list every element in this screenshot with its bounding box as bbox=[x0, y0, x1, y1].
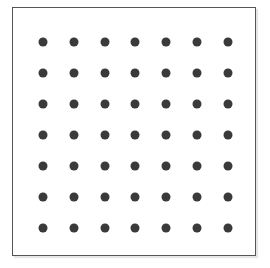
grid-dot bbox=[69, 193, 78, 202]
grid-dot bbox=[162, 38, 171, 47]
grid-dot bbox=[39, 224, 48, 233]
grid-dot bbox=[162, 162, 171, 171]
grid-dot bbox=[131, 162, 140, 171]
grid-dot bbox=[131, 193, 140, 202]
grid-dot bbox=[69, 38, 78, 47]
grid-dot bbox=[131, 100, 140, 109]
grid-dot bbox=[69, 162, 78, 171]
grid-dot bbox=[193, 193, 202, 202]
grid-dot bbox=[223, 38, 232, 47]
grid-dot bbox=[223, 100, 232, 109]
grid-dot bbox=[162, 100, 171, 109]
grid-dot bbox=[39, 69, 48, 78]
grid-dot bbox=[223, 162, 232, 171]
grid-dot bbox=[100, 193, 109, 202]
grid-dot bbox=[100, 131, 109, 140]
grid-dot bbox=[39, 193, 48, 202]
grid-dot bbox=[162, 193, 171, 202]
grid-dot bbox=[162, 224, 171, 233]
grid-dot bbox=[193, 131, 202, 140]
grid-dot bbox=[193, 100, 202, 109]
grid-dot bbox=[223, 131, 232, 140]
grid-dot bbox=[100, 69, 109, 78]
grid-dot bbox=[100, 224, 109, 233]
grid-dot bbox=[69, 131, 78, 140]
grid-dot bbox=[100, 100, 109, 109]
grid-dot bbox=[193, 224, 202, 233]
grid-dot bbox=[39, 131, 48, 140]
grid-dot bbox=[162, 131, 171, 140]
grid-dot bbox=[223, 193, 232, 202]
grid-dot bbox=[162, 69, 171, 78]
grid-dot bbox=[100, 38, 109, 47]
grid-dot bbox=[69, 100, 78, 109]
grid-dot bbox=[223, 69, 232, 78]
grid-dot bbox=[131, 131, 140, 140]
grid-dot bbox=[39, 38, 48, 47]
grid-dot bbox=[39, 100, 48, 109]
grid-dot bbox=[131, 38, 140, 47]
grid-dot bbox=[131, 69, 140, 78]
dot-grid-board bbox=[12, 7, 256, 256]
grid-dot bbox=[39, 162, 48, 171]
grid-dot bbox=[69, 224, 78, 233]
grid-dot bbox=[193, 69, 202, 78]
grid-dot bbox=[100, 162, 109, 171]
grid-dot bbox=[69, 69, 78, 78]
grid-dot bbox=[131, 224, 140, 233]
grid-dot bbox=[193, 162, 202, 171]
grid-dot bbox=[223, 224, 232, 233]
grid-dot bbox=[193, 38, 202, 47]
